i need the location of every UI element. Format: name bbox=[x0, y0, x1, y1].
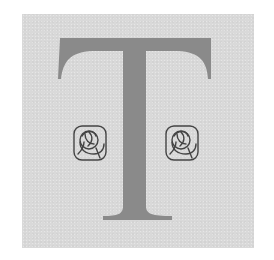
drop-cap-letter-t: T bbox=[0, 0, 274, 260]
rose-ornament-left-icon bbox=[72, 124, 108, 162]
rose-ornament-right-icon bbox=[164, 124, 200, 162]
